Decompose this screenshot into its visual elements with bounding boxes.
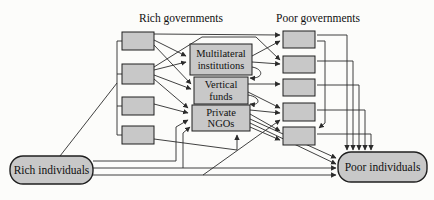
edge-multilateral-to-pg1 (252, 41, 280, 56)
edge-rg1-to-pg1 (154, 34, 280, 35)
aid-flow-diagram: MultilateralinstitutionsVerticalfundsPri… (0, 0, 434, 200)
edge-ngos-to-pg4 (250, 110, 280, 113)
node-rich-gov-box-4 (122, 126, 154, 144)
edge-pg1-down-to-poor-individuals (317, 35, 347, 150)
edge-ngos-to-pg5-a (250, 114, 280, 131)
edge-rg2-to-multilateral (154, 62, 186, 70)
edge-pg1-to-pg5-inner (317, 41, 325, 128)
node-rich-gov-box-3 (122, 97, 154, 115)
node-poor-gov-box-1 (283, 31, 315, 48)
edge-vertical-to-pg4 (248, 92, 280, 108)
edge-pg4-down-to-poor-individuals (317, 110, 365, 150)
diagram-canvas: MultilateralinstitutionsVerticalfundsPri… (0, 0, 434, 200)
edge-rich-individuals-branch-to-ngos (183, 127, 190, 168)
node-rich-gov-box-1 (122, 32, 154, 50)
edge-rich-individuals-to-spine (60, 83, 117, 156)
edge-rg1-to-vertical (154, 45, 191, 84)
edge-rg1-to-multilateral (154, 40, 186, 56)
edge-rg2-to-ngos (154, 79, 188, 108)
private-ngos-label: PrivateNGOs (206, 107, 236, 130)
poor-individuals-label: Poor individuals (345, 161, 421, 173)
vertical-funds-label: Verticalfunds (205, 79, 238, 102)
node-poor-gov-box-2 (283, 56, 315, 73)
node-poor-gov-box-4 (283, 103, 315, 121)
node-poor-gov-box-5 (283, 127, 315, 145)
rich-governments-heading: Rich governments (139, 12, 224, 25)
edge-rg2-to-vertical (154, 75, 191, 89)
multilateral-institutions-label: Multilateralinstitutions (196, 48, 246, 71)
node-rich-gov-box-2 (122, 64, 154, 84)
poor-governments-heading: Poor governments (276, 12, 361, 25)
node-poor-gov-box-3 (283, 79, 315, 96)
edge-multilateral-to-pg2 (252, 62, 280, 64)
edge-rg3-to-ngos (154, 104, 188, 113)
edge-pg5-down-to-poor-individuals (317, 134, 371, 150)
edge-pg2-down-to-poor-individuals (317, 61, 353, 150)
rich-individuals-label: Rich individuals (14, 164, 90, 176)
edge-rg4-to-ngos-bottom (154, 135, 237, 150)
